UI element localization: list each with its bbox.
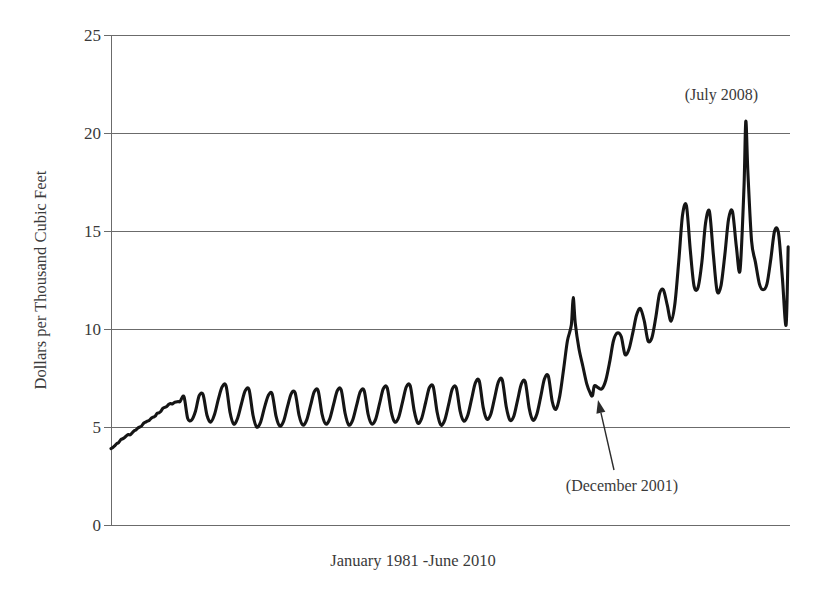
chart-figure: 25 20 15 10 5 0 Dollars per Thousand Cub… — [0, 0, 827, 599]
y-tick-label-10: 10 — [84, 320, 101, 339]
y-axis-tickmarks — [104, 36, 111, 526]
annotation-july-2008: (July 2008) — [685, 86, 758, 104]
x-axis-title: January 1981 -June 2010 — [330, 551, 495, 570]
y-tick-label-20: 20 — [84, 124, 101, 143]
y-tick-label-15: 15 — [84, 222, 101, 241]
y-axis-title: Dollars per Thousand Cubic Feet — [31, 170, 50, 389]
natural-gas-price-line-chart: 25 20 15 10 5 0 Dollars per Thousand Cub… — [0, 0, 827, 599]
y-tick-label-0: 0 — [93, 516, 102, 535]
y-tick-label-5: 5 — [93, 418, 102, 437]
plot-area-background — [111, 35, 790, 525]
y-tick-label-25: 25 — [84, 26, 101, 45]
annotation-december-2001: (December 2001) — [566, 477, 678, 495]
